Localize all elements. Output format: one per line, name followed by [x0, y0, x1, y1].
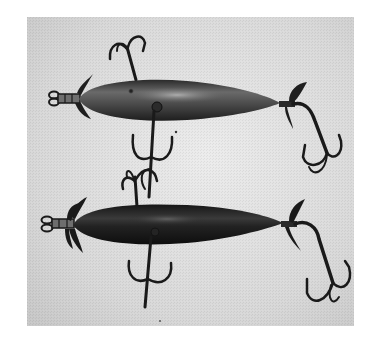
lures-photograph [27, 17, 354, 326]
lower-lure-belly-hanger [151, 228, 159, 236]
upper-lure-eye [129, 89, 133, 93]
upper-lure-body-highlight [129, 87, 225, 103]
image-canvas: Black and white photograph of two torped… [0, 0, 381, 340]
lower-lure-body-highlight [127, 213, 207, 225]
